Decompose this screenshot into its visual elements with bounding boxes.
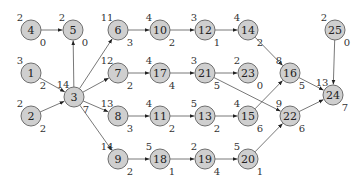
node-9: 9142 [101, 141, 134, 177]
node-top-number: 5 [234, 141, 240, 152]
node-bottom-number: 1 [169, 166, 175, 177]
node-id-label: 2 [28, 110, 35, 123]
node-id-label: 19 [198, 153, 212, 166]
node-top-number: 2 [17, 98, 23, 109]
node-id-label: 1 [28, 67, 35, 80]
node-bottom-number: 7 [83, 104, 89, 115]
edge-2-to-3 [40, 101, 64, 112]
node-id-label: 14 [241, 24, 255, 37]
node-id-label: 8 [115, 110, 122, 123]
node-22: 2296 [276, 98, 305, 134]
network-diagram: 4205206113104212311442252013271221744213… [0, 0, 360, 185]
node-id-label: 5 [70, 24, 77, 37]
node-id-label: 23 [241, 67, 255, 80]
node-top-number: 13 [101, 98, 114, 109]
node-bottom-number: 2 [257, 37, 263, 48]
node-top-number: 3 [17, 55, 23, 66]
node-bottom-number: 4 [214, 166, 220, 177]
edge-3-to-5 [73, 40, 74, 87]
node-bottom-number: 2 [214, 123, 220, 134]
node-top-number: 14 [57, 79, 70, 90]
node-bottom-number: 2 [169, 37, 175, 48]
node-25: 2520 [321, 12, 350, 48]
node-16: 1685 [276, 55, 305, 91]
node-bottom-number: 2 [40, 123, 46, 134]
node-id-label: 21 [198, 67, 212, 80]
node-top-number: 14 [101, 141, 114, 152]
node-bottom-number: 1 [214, 37, 220, 48]
node-bottom-number: 0 [257, 80, 263, 91]
node-top-number: 9 [276, 98, 282, 109]
node-id-label: 17 [153, 67, 167, 80]
node-bottom-number: 0 [344, 37, 350, 48]
node-23: 2320 [234, 55, 263, 91]
edge-3-to-7 [83, 78, 109, 92]
node-bottom-number: 5 [299, 80, 305, 91]
node-bottom-number: 6 [257, 123, 263, 134]
node-id-label: 16 [283, 67, 297, 80]
node-id-label: 11 [153, 110, 167, 123]
node-id-label: 4 [28, 24, 35, 37]
edge-25-to-24 [333, 40, 334, 85]
node-bottom-number: 6 [299, 123, 305, 134]
node-top-number: 4 [146, 98, 152, 109]
node-id-label: 18 [153, 153, 167, 166]
node-7: 7122 [101, 55, 134, 91]
node-bottom-number: 3 [127, 123, 133, 134]
node-top-number: 13 [316, 77, 329, 88]
node-top-number: 4 [146, 12, 152, 23]
node-id-label: 25 [328, 24, 342, 37]
node-top-number: 2 [59, 12, 65, 23]
node-id-label: 3 [71, 91, 78, 104]
node-id-label: 24 [326, 89, 340, 102]
node-id-label: 22 [283, 110, 297, 123]
node-top-number: 4 [234, 12, 240, 23]
node-bottom-number: 2 [169, 123, 175, 134]
node-bottom-number: 2 [40, 80, 46, 91]
node-id-label: 13 [198, 110, 212, 123]
node-1: 132 [17, 55, 46, 91]
node-top-number: 5 [191, 98, 197, 109]
node-id-label: 7 [115, 67, 122, 80]
node-bottom-number: 0 [82, 37, 88, 48]
node-bottom-number: 7 [342, 102, 348, 113]
node-top-number: 2 [234, 55, 240, 66]
node-top-number: 3 [191, 12, 197, 23]
edge-22-to-24 [299, 100, 324, 112]
node-15: 1546 [234, 98, 263, 134]
node-6: 6113 [101, 12, 134, 48]
node-id-label: 15 [241, 110, 255, 123]
node-bottom-number: 0 [40, 37, 46, 48]
node-id-label: 20 [241, 153, 255, 166]
node-top-number: 2 [321, 12, 327, 23]
node-id-label: 9 [115, 153, 122, 166]
node-3: 3147 [57, 79, 90, 115]
node-id-label: 12 [198, 24, 212, 37]
node-bottom-number: 2 [127, 80, 133, 91]
node-top-number: 5 [146, 141, 152, 152]
node-top-number: 2 [17, 12, 23, 23]
node-top-number: 8 [276, 55, 282, 66]
node-14: 1442 [234, 12, 263, 48]
node-bottom-number: 1 [257, 166, 263, 177]
node-top-number: 2 [191, 141, 197, 152]
node-top-number: 4 [234, 98, 240, 109]
node-bottom-number: 2 [127, 166, 133, 177]
node-24: 24137 [316, 77, 349, 113]
node-20: 2051 [234, 141, 263, 177]
node-2: 222 [17, 98, 46, 134]
node-top-number: 11 [101, 12, 114, 23]
node-id-label: 10 [153, 24, 167, 37]
nodes-layer: 4205206113104212311442252013271221744213… [17, 12, 350, 177]
node-id-label: 6 [115, 24, 122, 37]
node-top-number: 4 [146, 55, 152, 66]
node-top-number: 12 [101, 55, 114, 66]
node-bottom-number: 5 [214, 80, 220, 91]
node-8: 8133 [101, 98, 134, 134]
node-bottom-number: 3 [127, 37, 133, 48]
node-bottom-number: 4 [169, 80, 175, 91]
node-top-number: 3 [191, 55, 197, 66]
